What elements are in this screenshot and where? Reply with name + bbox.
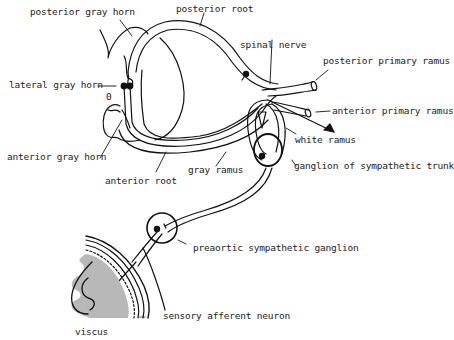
- lateral-horn-neuron: [121, 83, 127, 89]
- label-preaortic-sympathetic-ganglion: preaortic sympathetic ganglion: [193, 243, 359, 253]
- label-posterior-primary-ramus: posterior primary ramus: [323, 56, 450, 66]
- label-anterior-root: anterior root: [105, 176, 177, 186]
- posterior-root: [127, 21, 278, 90]
- label-posterior-gray-horn: posterior gray horn: [30, 7, 135, 17]
- arrow-head: [324, 124, 334, 132]
- svg-text:vac: vac: [139, 314, 146, 319]
- lateral-horn-neuron: [127, 83, 133, 89]
- label-gray-ramus: gray ramus: [188, 165, 243, 175]
- label-posterior-root: posterior root: [176, 4, 253, 14]
- spinal-nerve: [262, 81, 334, 132]
- splanchnic-nerve: [165, 168, 272, 232]
- anterior-root: [119, 86, 276, 153]
- label-anterior-gray-horn: anterior gray horn: [7, 152, 106, 162]
- sensory-afferent-fibre: [143, 248, 165, 310]
- label-sensory-afferent-neuron: sensory afferent neuron: [163, 311, 290, 321]
- gray-matter-outline: [155, 38, 184, 140]
- label-spinal-nerve: spinal nerve: [240, 40, 306, 50]
- label-anterior-primary-ramus: anterior primary ramus: [332, 106, 453, 116]
- viscus-mucosa: [72, 254, 129, 318]
- label-viscus: viscus: [75, 327, 108, 337]
- posterior-primary-ramus-cut: [310, 81, 317, 91]
- label-lateral-gray-horn: lateral gray horn: [9, 80, 103, 90]
- label-ganglion-of-sympathetic-trunk: ganglion of sympathetic trunk: [294, 161, 454, 171]
- label-white-ramus: white ramus: [295, 135, 356, 145]
- label-zero-marker: 0: [106, 92, 112, 102]
- sympathetic-trunk-ganglion: [254, 134, 282, 166]
